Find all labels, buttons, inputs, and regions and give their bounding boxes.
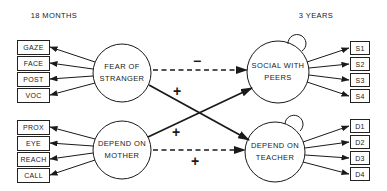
node-fear-line1: FEAR OF	[100, 61, 145, 73]
node-social-line1: SOCIAL WITH	[252, 60, 305, 72]
node-social-line2: PEERS	[252, 72, 305, 84]
node-fear-line2: STRANGER	[100, 73, 145, 85]
node-mother-label: DEPEND ON MOTHER	[98, 138, 146, 162]
path-mother-to-social	[148, 88, 252, 137]
node-teacher-line1: DEPEND ON	[251, 140, 299, 152]
sign-mother-to-teacher: +	[191, 154, 199, 168]
indicator-s1: S1	[350, 41, 370, 55]
indicator-s3: S3	[350, 73, 370, 87]
residual-loop-social	[288, 35, 306, 51]
indicator-d1: D1	[350, 119, 370, 133]
sign-mother-to-social: +	[172, 125, 180, 139]
indicator-prox: PROX	[17, 120, 50, 135]
path-diagram: 18 MONTHS 3 YEARS FEAR OF STRANGER DEPEN…	[0, 0, 387, 191]
indicator-s2: S2	[350, 57, 370, 71]
indicator-d4: D4	[350, 167, 370, 181]
indicator-face: FACE	[17, 56, 50, 71]
sign-fear-to-social: −	[193, 54, 201, 68]
node-mother-line1: DEPEND ON	[98, 138, 146, 150]
node-teacher-label: DEPEND ON TEACHER	[251, 140, 299, 164]
indicator-gaze: GAZE	[17, 40, 50, 55]
time-label-3-years: 3 YEARS	[299, 11, 333, 20]
time-label-18-months: 18 MONTHS	[31, 11, 78, 20]
indicator-post: POST	[17, 72, 50, 87]
indicator-d3: D3	[350, 151, 370, 165]
node-teacher-line2: TEACHER	[251, 152, 299, 164]
indicator-s4: S4	[350, 89, 370, 103]
indicator-eye: EYE	[17, 136, 50, 151]
indicator-voc: VOC	[17, 88, 50, 103]
indicator-reach: REACH	[17, 152, 50, 167]
indicator-d2: D2	[350, 135, 370, 149]
node-fear-label: FEAR OF STRANGER	[100, 61, 145, 85]
indicator-call: CALL	[17, 168, 50, 183]
sign-fear-to-teacher: +	[173, 84, 181, 98]
node-social-label: SOCIAL WITH PEERS	[252, 60, 305, 84]
node-mother-line2: MOTHER	[98, 150, 146, 162]
